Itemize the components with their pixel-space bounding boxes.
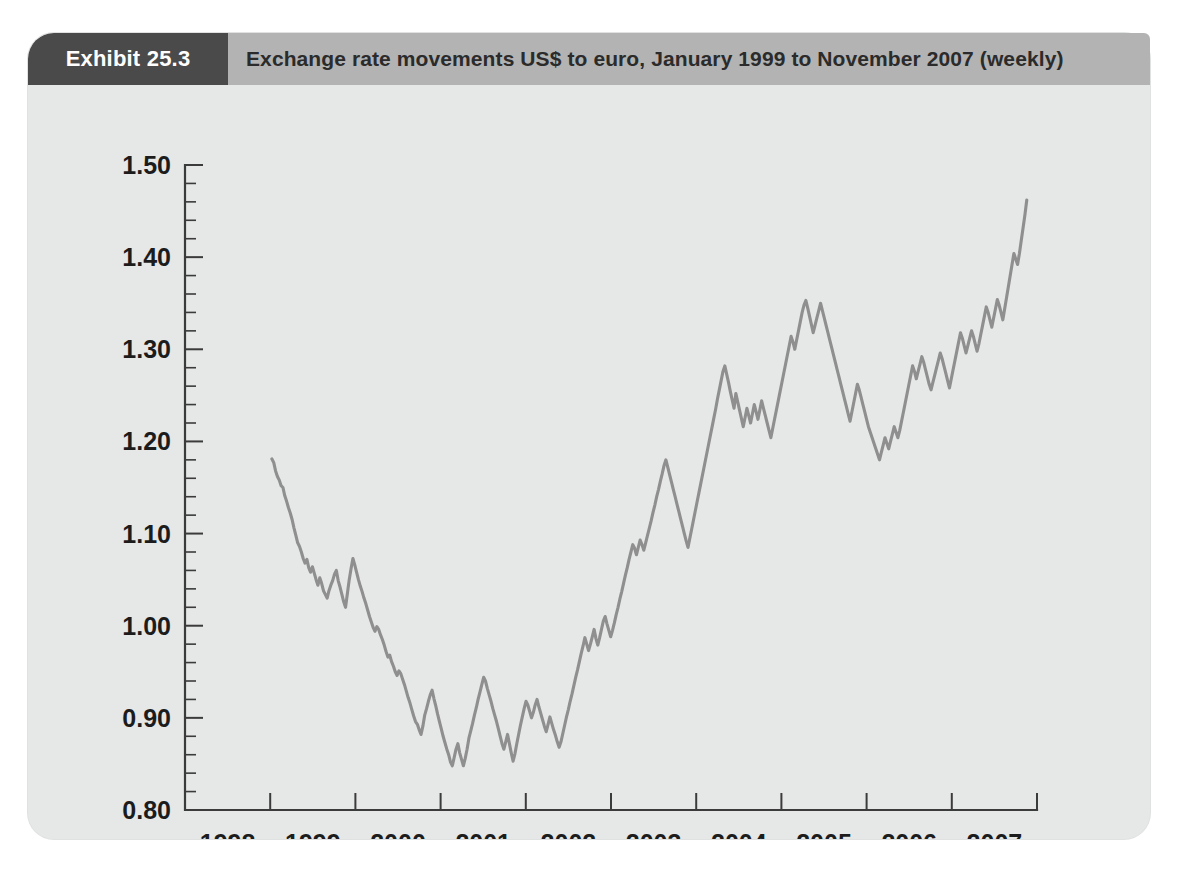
y-axis-tick-label: 1.40: [122, 243, 171, 271]
exhibit-header-bar: Exhibit 25.3 Exchange rate movements US$…: [28, 33, 1150, 85]
y-axis-tick-label: 1.20: [122, 427, 171, 455]
y-axis-tick-label: 1.50: [122, 151, 171, 179]
line-chart: 0.800.901.001.101.201.301.401.50 1998199…: [28, 85, 1150, 839]
y-axis-tick-label: 0.90: [122, 704, 171, 732]
x-axis-tick-label: 2007: [967, 829, 1023, 839]
y-axis-tick-labels: 0.800.901.001.101.201.301.401.50: [122, 151, 171, 824]
x-axis-tick-label: 1999: [285, 829, 341, 839]
x-axis-tick-label: 2004: [711, 829, 767, 839]
x-axis-tick-label: 1998: [200, 829, 256, 839]
y-axis-tick-label: 0.80: [122, 796, 171, 824]
x-axis-tick-labels: 1998199920002001200220032004200520062007: [200, 829, 1022, 839]
chart-axes: [185, 165, 1037, 810]
exhibit-title: Exchange rate movements US$ to euro, Jan…: [246, 33, 1142, 85]
x-axis-tick-label: 2001: [455, 829, 511, 839]
x-axis-tick-label: 2000: [370, 829, 426, 839]
x-axis-tick-label: 2003: [626, 829, 682, 839]
exhibit-number-tag: Exhibit 25.3: [28, 33, 228, 85]
x-axis-major-ticks: [185, 793, 1037, 810]
x-axis-tick-label: 2002: [541, 829, 597, 839]
exhibit-number-label: Exhibit 25.3: [66, 46, 191, 72]
y-axis-minor-ticks: [185, 183, 196, 791]
y-axis-tick-label: 1.00: [122, 612, 171, 640]
exhibit-panel: Exhibit 25.3 Exchange rate movements US$…: [28, 33, 1150, 839]
y-axis-tick-label: 1.10: [122, 520, 171, 548]
exchange-rate-series: [272, 200, 1027, 766]
x-axis-tick-label: 2005: [796, 829, 852, 839]
y-axis-tick-label: 1.30: [122, 335, 171, 363]
y-axis-major-ticks: [185, 165, 203, 810]
chart-area: 0.800.901.001.101.201.301.401.50 1998199…: [28, 85, 1150, 839]
x-axis-tick-label: 2006: [881, 829, 937, 839]
